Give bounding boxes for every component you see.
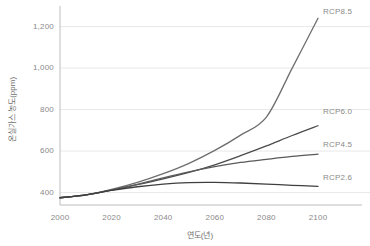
y-tick-label-1200: 1,200 (20, 22, 54, 31)
x-axis-title: 연도(년) (170, 229, 230, 240)
series-label-rcp2-6: RCP2.6 (323, 173, 352, 182)
series-line-rcp6-0 (60, 126, 318, 198)
series-line-rcp4-5 (60, 154, 318, 198)
series-label-rcp6-0: RCP6.0 (323, 107, 352, 116)
chart-container: 온실가스 농도(ppm) 연도(년) 4006008001,0001,200 2… (0, 0, 370, 246)
series-line-rcp8-5 (60, 18, 318, 197)
series-label-rcp4-5: RCP4.5 (323, 140, 352, 149)
line-chart-plot (0, 0, 370, 246)
x-tick-label-2000: 2000 (40, 213, 80, 222)
y-tick-label-800: 800 (20, 105, 54, 114)
y-tick-label-1000: 1,000 (20, 63, 54, 72)
x-tick-label-2020: 2020 (92, 213, 132, 222)
x-tick-label-2060: 2060 (195, 213, 235, 222)
y-tick-label-400: 400 (20, 188, 54, 197)
y-axis-title: 온실가스 농도(ppm) (6, 77, 17, 143)
y-tick-label-600: 600 (20, 146, 54, 155)
x-tick-label-2040: 2040 (143, 213, 183, 222)
x-tick-label-2100: 2100 (298, 213, 338, 222)
series-line-rcp2-6 (60, 182, 318, 197)
series-label-rcp8-5: RCP8.5 (323, 7, 352, 16)
x-tick-label-2080: 2080 (246, 213, 286, 222)
